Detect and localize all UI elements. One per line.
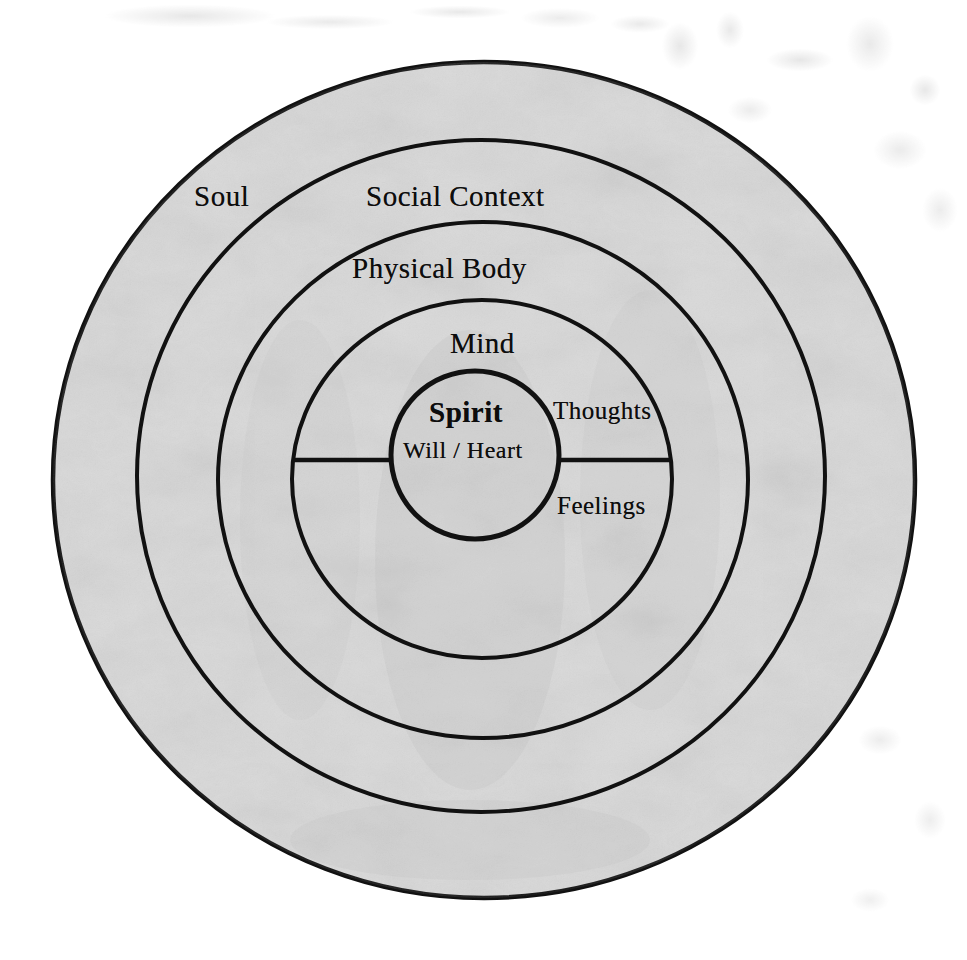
concentric-circles-diagram: [0, 0, 967, 960]
ring-label-mind: Mind: [450, 327, 515, 360]
segment-label-thoughts: Thoughts: [553, 397, 651, 425]
segment-label-feelings: Feelings: [557, 492, 646, 520]
center-label-will-heart: Will / Heart: [403, 437, 523, 464]
ring-label-social-context: Social Context: [366, 180, 545, 213]
diagram-canvas: [0, 0, 967, 960]
center-label-spirit: Spirit: [429, 396, 503, 429]
ring-label-soul: Soul: [194, 180, 249, 213]
ring-label-physical-body: Physical Body: [352, 252, 527, 285]
